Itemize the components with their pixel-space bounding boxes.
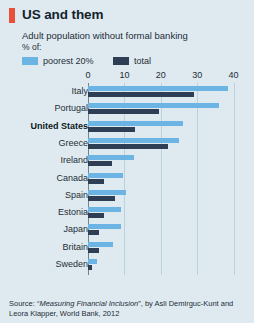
legend-item-total: total [113, 56, 151, 66]
bar-poorest [88, 86, 228, 91]
chart-bar-row: Canada [0, 171, 254, 187]
legend-item-poorest: poorest 20% [22, 56, 94, 66]
category-label: Portugal [54, 103, 88, 114]
bar-total [88, 179, 104, 184]
bar-poorest [88, 207, 121, 212]
bar-total [88, 196, 115, 201]
chart-subtitle: Adult population without formal banking [22, 30, 188, 41]
chart-bar-row: Portugal [0, 101, 254, 117]
bar-poorest [88, 190, 126, 195]
bar-total [88, 92, 194, 97]
category-label: United States [30, 121, 88, 132]
chart-bar-row: Italy [0, 84, 254, 100]
bar-poorest [88, 242, 113, 247]
bar-poorest [88, 173, 123, 178]
chart-source-note: Source: “Measuring Financial Inclusion”,… [9, 299, 247, 318]
bar-poorest [88, 103, 219, 108]
bar-total [88, 161, 112, 166]
bar-poorest [88, 224, 121, 229]
chart-bar-row: Britain [0, 240, 254, 256]
category-label: Ireland [60, 155, 88, 166]
chart-bar-row: Spain [0, 188, 254, 204]
legend-swatch-total [113, 57, 129, 65]
legend-label-poorest: poorest 20% [43, 56, 94, 66]
x-tick-label: 0 [85, 70, 90, 81]
x-tick-label: 10 [119, 70, 129, 81]
x-tick-label: 30 [192, 70, 202, 81]
bar-total [88, 230, 99, 235]
x-tick-label: 20 [156, 70, 166, 81]
source-title: Measuring Financial Inclusion [39, 299, 138, 308]
chart-bar-row: Sweden [0, 257, 254, 273]
chart-figure: US and them Adult population without for… [0, 0, 254, 323]
bar-total [88, 109, 159, 114]
category-label: Sweden [55, 259, 88, 270]
x-tick-label: 40 [229, 70, 239, 81]
chart-bar-row: Estonia [0, 205, 254, 221]
category-label: Britain [62, 242, 88, 253]
category-label: Italy [71, 86, 88, 97]
chart-header: US and them [9, 8, 103, 23]
x-axis-tick-labels: 010203040 [0, 70, 254, 83]
bar-poorest [88, 155, 134, 160]
bar-total [88, 144, 168, 149]
chart-bar-row: Japan [0, 222, 254, 238]
title-accent-mark [9, 8, 15, 23]
bar-total [88, 127, 135, 132]
category-label: Spain [65, 190, 88, 201]
bar-poorest [88, 121, 183, 126]
legend-swatch-poorest [22, 57, 38, 65]
chart-unit-label: % of: [22, 42, 41, 52]
category-label: Canada [56, 173, 88, 184]
bar-total [88, 265, 92, 270]
chart-bar-row: Greece [0, 136, 254, 152]
chart-bar-rows: ItalyPortugalUnited StatesGreeceIrelandC… [0, 83, 254, 275]
chart-bar-row: Ireland [0, 153, 254, 169]
chart-plot-area: 010203040 ItalyPortugalUnited StatesGree… [0, 70, 254, 288]
page-title: US and them [22, 8, 103, 22]
bar-total [88, 248, 99, 253]
category-label: Japan [63, 224, 88, 235]
legend-label-total: total [134, 56, 151, 66]
category-label: Greece [58, 138, 88, 149]
bar-poorest [88, 259, 97, 264]
bar-total [88, 213, 104, 218]
source-prefix: Source: “ [9, 299, 39, 308]
category-label: Estonia [58, 207, 88, 218]
chart-bar-row: United States [0, 119, 254, 135]
bar-poorest [88, 138, 179, 143]
